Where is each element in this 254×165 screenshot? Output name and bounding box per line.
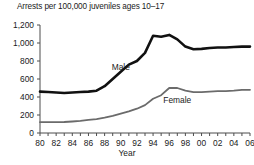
data-series-group	[40, 35, 250, 122]
y-tick-label: 800	[20, 56, 34, 66]
line-chart-plot: 02004006008001,0001,200 8082848688909294…	[0, 0, 254, 165]
x-tick-label: 90	[116, 138, 126, 148]
series-line-male	[40, 35, 250, 93]
y-tick-label: 0	[29, 128, 34, 138]
y-axis-tick-labels: 02004006008001,0001,200	[13, 20, 34, 138]
x-tick-label: 80	[35, 138, 45, 148]
x-tick-label: 92	[132, 138, 142, 148]
x-tick-label: 94	[148, 138, 158, 148]
x-tick-label: 96	[165, 138, 175, 148]
series-label-male: Male	[112, 62, 130, 72]
y-tick-label: 1,000	[13, 38, 34, 48]
x-axis-tick-labels: 8082848688909294969800020406	[35, 138, 254, 148]
series-label-female: Female	[163, 95, 191, 105]
x-tick-label: 84	[68, 138, 78, 148]
y-tick-label: 400	[20, 92, 34, 102]
x-tick-label: 00	[197, 138, 207, 148]
x-tick-label: 82	[51, 138, 61, 148]
x-tick-label: 02	[213, 138, 223, 148]
x-axis-title: Year	[0, 148, 254, 158]
y-tick-label: 200	[20, 110, 34, 120]
x-tick-label: 88	[100, 138, 110, 148]
x-tick-label: 06	[245, 138, 254, 148]
y-tick-label: 1,200	[13, 20, 34, 30]
x-tick-label: 04	[229, 138, 239, 148]
x-tick-label: 98	[181, 138, 191, 148]
y-tick-label: 600	[20, 74, 34, 84]
x-tick-label: 86	[84, 138, 94, 148]
chart-figure: Arrests per 100,000 juveniles ages 10–17…	[0, 0, 254, 165]
